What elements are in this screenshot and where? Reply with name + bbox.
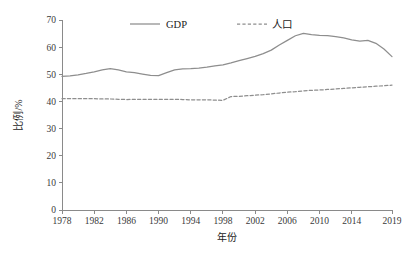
series-group bbox=[62, 33, 392, 100]
x-axis-title: 年份 bbox=[217, 231, 237, 243]
x-tick-label: 1990 bbox=[149, 216, 168, 226]
legend-label-人口: 人口 bbox=[272, 19, 292, 30]
x-tick-label: 1998 bbox=[213, 216, 232, 226]
chart-figure: 010203040506070 197819821986199019941998… bbox=[0, 0, 406, 254]
y-tick-label: 0 bbox=[51, 205, 56, 215]
x-tick-label: 1994 bbox=[181, 216, 200, 226]
y-axis-ticks: 010203040506070 bbox=[47, 15, 63, 215]
y-tick-label: 50 bbox=[47, 70, 57, 80]
series-line-GDP bbox=[62, 33, 392, 76]
y-tick-label: 10 bbox=[47, 178, 57, 188]
x-tick-label: 2006 bbox=[278, 216, 297, 226]
y-tick-label: 20 bbox=[47, 151, 57, 161]
line-chart: 010203040506070 197819821986199019941998… bbox=[0, 0, 406, 254]
x-tick-label: 2019 bbox=[383, 216, 402, 226]
y-tick-label: 40 bbox=[47, 97, 57, 107]
x-tick-label: 2002 bbox=[246, 216, 265, 226]
x-tick-label: 1986 bbox=[117, 216, 136, 226]
chart-legend: GDP人口 bbox=[130, 19, 292, 30]
x-tick-label: 1978 bbox=[53, 216, 72, 226]
y-tick-label: 30 bbox=[47, 124, 57, 134]
x-tick-label: 2010 bbox=[310, 216, 329, 226]
series-line-人口 bbox=[62, 85, 392, 100]
x-tick-label: 1982 bbox=[85, 216, 104, 226]
y-tick-label: 70 bbox=[47, 15, 57, 25]
y-axis-title: 比例/% bbox=[12, 99, 24, 130]
x-tick-label: 2014 bbox=[342, 216, 361, 226]
legend-label-GDP: GDP bbox=[166, 19, 187, 30]
y-tick-label: 60 bbox=[47, 43, 57, 53]
x-axis-ticks: 1978198219861990199419982002200620102014… bbox=[53, 210, 402, 226]
